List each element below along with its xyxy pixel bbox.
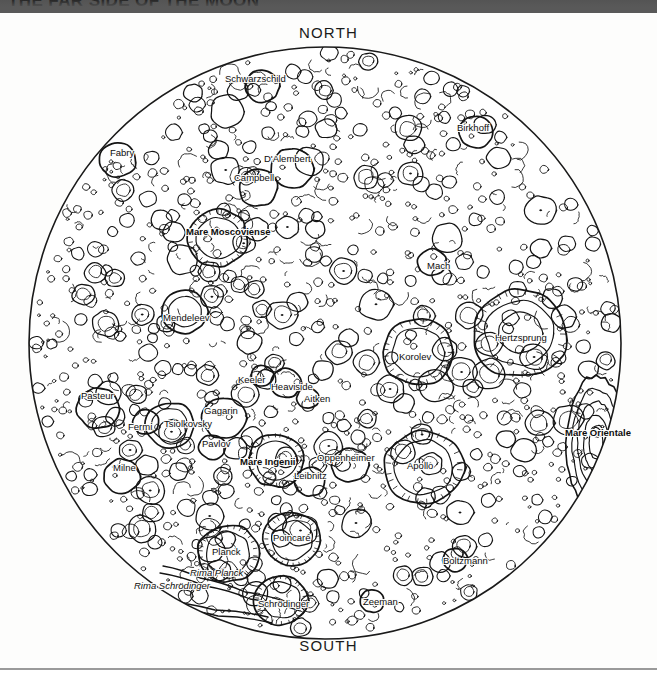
- page-bottom-rule: [0, 668, 657, 670]
- feature-label-leibnitz: Leibnitz: [294, 471, 327, 482]
- feature-label-mach: Mach: [427, 261, 450, 272]
- feature-label-boltzmann: Boltzmann: [443, 556, 488, 567]
- feature-label-schwarzschild: Schwarzschild: [225, 74, 286, 85]
- feature-label-rima-schr-dinger: Rima Schrödinger: [134, 581, 210, 592]
- feature-label-campbell: Campbell: [234, 173, 274, 184]
- feature-label-apollo: Apollo: [407, 461, 433, 472]
- feature-label-mendeleev: Mendeleev: [163, 313, 209, 324]
- feature-label-tsiolkovsky: Tsiolkovsky: [164, 419, 212, 430]
- feature-label-pasteur: Pasteur: [81, 391, 114, 402]
- cardinal-label-north: NORTH: [0, 24, 657, 41]
- cardinal-label-south: SOUTH: [0, 637, 657, 654]
- feature-label-fabry: Fabry: [110, 148, 134, 159]
- feature-label-gagarin: Gagarin: [204, 406, 238, 417]
- feature-label-poincar: Poincaré: [273, 533, 311, 544]
- feature-label-birkhoff: Birkhoff: [457, 123, 489, 134]
- feature-label-hertzsprung: Hertzsprung: [495, 333, 547, 344]
- feature-label-keeler: Keeler: [238, 375, 265, 386]
- feature-label-zeeman: Zeeman: [363, 597, 398, 608]
- moon-map: NORTH SOUTH SchwarzschildBirkhoffFabryD'…: [0, 0, 657, 675]
- feature-label-fermi: Fermi: [128, 422, 152, 433]
- feature-label-rima-planck: Rima Planck: [190, 568, 243, 579]
- feature-label-planck: Planck: [212, 547, 241, 558]
- feature-label-oppenheimer: Oppenheimer: [317, 453, 375, 464]
- moon-map-svg: [0, 0, 657, 675]
- feature-label-pavlov: Pavlov: [202, 439, 231, 450]
- feature-label-d-alembert: D'Alembert: [264, 154, 311, 165]
- feature-label-aitken: Aitken: [304, 394, 330, 405]
- feature-label-mare-moscoviense: Mare Moscoviense: [186, 227, 270, 238]
- feature-label-mare-orientale: Mare Orientale: [565, 428, 631, 439]
- feature-label-heaviside: Heaviside: [271, 382, 313, 393]
- feature-label-schr-dinger: Schrödinger: [258, 599, 309, 610]
- feature-label-milne: Milne: [113, 463, 136, 474]
- feature-label-mare-ingenii: Mare Ingenii: [240, 457, 295, 468]
- feature-label-korolev: Korolev: [399, 352, 431, 363]
